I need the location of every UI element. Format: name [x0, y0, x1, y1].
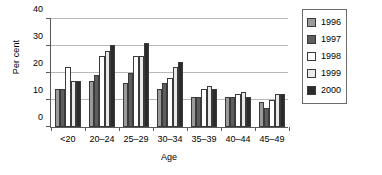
x-axis-label: Age	[50, 152, 288, 162]
y-axis-tick-label: 30	[33, 32, 43, 41]
bar-group: 45–49	[255, 19, 289, 127]
legend-item-label: 1998	[321, 52, 341, 61]
bar-2000-30–34	[178, 62, 183, 127]
legend-swatch-icon	[307, 18, 316, 27]
bar-2000-35–39	[212, 89, 217, 127]
bar-2000-40–44	[246, 97, 251, 127]
bar-group: 30–34	[153, 19, 187, 127]
bar-2000-20–24	[110, 45, 115, 127]
y-axis-tick-label: 10	[33, 86, 43, 95]
legend-item-1998: 1998	[307, 48, 341, 65]
x-axis-tick	[255, 127, 256, 131]
legend-item-1996: 1996	[307, 14, 341, 31]
x-axis-tick-label: <20	[60, 134, 75, 144]
x-axis-tick	[187, 127, 188, 131]
x-axis-tick	[221, 127, 222, 131]
legend-item-label: 1997	[321, 35, 341, 44]
legend-item-label: 1996	[321, 18, 341, 27]
x-axis-tick-label: 45–49	[259, 134, 284, 144]
y-axis-tick-label: 20	[33, 59, 43, 68]
bar-group: <20	[51, 19, 85, 127]
y-axis-label: Per cent	[11, 27, 21, 87]
bar-group: 20–24	[85, 19, 119, 127]
bar-chart-figure: Per cent 010203040<2020–2425–2930–3435–3…	[0, 0, 382, 175]
y-axis-tick-label: 0	[38, 113, 43, 122]
plot-area: 010203040<2020–2425–2930–3435–3940–4445–…	[50, 19, 288, 128]
x-axis-tick	[153, 127, 154, 131]
x-axis-tick	[119, 127, 120, 131]
legend-item-1997: 1997	[307, 31, 341, 48]
bar-group: 35–39	[187, 19, 221, 127]
x-axis-tick	[51, 127, 52, 131]
bar-group: 25–29	[119, 19, 153, 127]
legend-item-label: 2000	[321, 86, 341, 95]
legend: 19961997199819992000	[302, 9, 347, 104]
x-axis-tick-label: 35–39	[191, 134, 216, 144]
x-axis-tick-label: 20–24	[89, 134, 114, 144]
legend-item-label: 1999	[321, 69, 341, 78]
legend-swatch-icon	[307, 35, 316, 44]
bar-2000-<20	[76, 81, 81, 127]
x-axis-tick	[289, 127, 290, 131]
x-axis-tick-label: 30–34	[157, 134, 182, 144]
bar-group: 40–44	[221, 19, 255, 127]
legend-item-1999: 1999	[307, 65, 341, 82]
bar-2000-45–49	[280, 94, 285, 127]
x-axis-tick-label: 25–29	[123, 134, 148, 144]
x-axis-tick-label: 40–44	[225, 134, 250, 144]
x-axis-tick	[85, 127, 86, 131]
legend-item-2000: 2000	[307, 82, 341, 99]
legend-swatch-icon	[307, 86, 316, 95]
bar-2000-25–29	[144, 43, 149, 127]
y-axis-tick-label: 40	[33, 5, 43, 14]
legend-swatch-icon	[307, 69, 316, 78]
legend-swatch-icon	[307, 52, 316, 61]
